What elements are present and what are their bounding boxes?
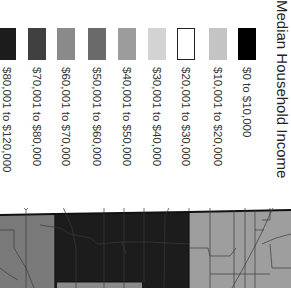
legend-label: $70,001 to $80,000 bbox=[29, 67, 45, 207]
legend-swatch bbox=[88, 28, 106, 60]
legend-label: $80,001 to $120,000 bbox=[0, 67, 15, 207]
legend-label: $30,001 to $40,000 bbox=[149, 67, 165, 207]
legend-label: $20,001 to $30,000 bbox=[178, 67, 194, 207]
region-center[interactable] bbox=[55, 212, 189, 288]
legend-label: $10,001 to $20,000 bbox=[210, 67, 226, 207]
legend-swatch bbox=[177, 28, 195, 60]
legend-swatch bbox=[28, 28, 46, 60]
legend-swatch bbox=[209, 28, 227, 60]
legend-swatch bbox=[57, 28, 75, 60]
legend-label: $0 to $10,000 bbox=[239, 67, 255, 207]
map-canvas bbox=[0, 208, 291, 288]
legend-title: Median Household Income bbox=[271, 0, 291, 160]
region-left[interactable] bbox=[0, 214, 55, 288]
legend-label: $50,001 to $60,000 bbox=[89, 67, 105, 207]
legend-swatch bbox=[118, 28, 136, 60]
legend-label: $40,001 to $50,000 bbox=[119, 67, 135, 207]
legend-swatch bbox=[0, 28, 16, 60]
legend-swatch bbox=[238, 28, 256, 60]
choropleth-map[interactable] bbox=[0, 208, 291, 288]
legend-swatch bbox=[148, 28, 166, 60]
region-right[interactable] bbox=[189, 210, 291, 288]
region-parcel bbox=[57, 282, 142, 288]
legend-label: $60,001 to $70,000 bbox=[58, 67, 74, 207]
